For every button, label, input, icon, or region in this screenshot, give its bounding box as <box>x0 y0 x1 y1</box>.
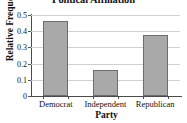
bar <box>93 70 118 96</box>
y-tick-mark <box>28 47 31 48</box>
x-axis-label: Party <box>31 110 182 120</box>
x-category-label: Independent <box>81 99 131 109</box>
y-tick-mark <box>28 31 31 32</box>
y-tick-label: 0.2 <box>17 59 27 68</box>
y-tick-label: 0.5 <box>17 11 27 20</box>
x-category-label: Democrat <box>31 99 81 109</box>
bar-chart-figure: Political Affiliation Relative Frequency… <box>0 0 187 123</box>
bar <box>143 35 168 96</box>
y-tick-label: 0.3 <box>17 43 27 52</box>
x-axis-line <box>31 96 182 97</box>
y-axis-label: Relative Frequency <box>4 0 16 62</box>
y-tick-mark <box>28 80 31 81</box>
y-tick-mark <box>28 15 31 16</box>
y-tick-label: 0 <box>23 92 27 101</box>
bar <box>43 21 68 96</box>
y-tick-label: 0.1 <box>17 75 27 84</box>
y-tick-mark <box>28 64 31 65</box>
x-category-label: Republican <box>130 99 180 109</box>
plot-area: 00.10.20.30.40.5 <box>31 15 180 96</box>
y-tick-mark <box>28 96 31 97</box>
y-tick-label: 0.4 <box>17 27 27 36</box>
chart-title: Political Affiliation <box>0 0 187 5</box>
gridline <box>31 15 180 16</box>
